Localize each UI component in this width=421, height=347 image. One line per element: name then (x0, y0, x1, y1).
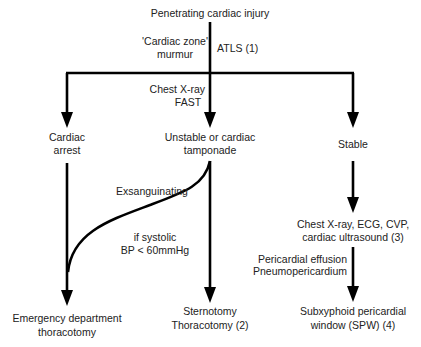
flowchart: Penetrating cardiac injury 'Cardiac zone… (0, 0, 421, 347)
murmur-label: murmur (157, 48, 194, 60)
edt-node: Emergency department (12, 312, 121, 324)
systolic-label: if systolic (134, 231, 177, 243)
arrow-down-icon (347, 112, 359, 128)
pneumopericardium-label: Pneumopericardium (253, 265, 347, 277)
edt-node-line2: thoracotomy (38, 326, 97, 338)
unstable-node: Unstable or cardiac (165, 131, 255, 143)
arrow-down-icon (347, 197, 359, 213)
stable-node: Stable (338, 138, 368, 150)
arrow-down-icon (347, 286, 359, 302)
cardiac-zone-label: 'Cardiac zone' (142, 35, 208, 47)
fast-label: FAST (175, 96, 202, 108)
spw-node: Subxyphoid pericardial (300, 305, 406, 317)
spw-node-line2: window (SPW) (4) (310, 319, 396, 331)
investigations-node-line2: cardiac ultrasound (3) (302, 231, 404, 243)
chest-xray-label: Chest X-ray (150, 83, 206, 95)
arrow-down-icon (204, 287, 216, 303)
effusion-label: Pericardial effusion (258, 253, 347, 265)
cardiac-arrest-node-line2: arrest (54, 144, 81, 156)
arrow-down-icon (61, 112, 73, 128)
arrow-down-icon (61, 290, 73, 306)
sternotomy-node-line2: Thoracotomy (2) (171, 319, 248, 331)
investigations-node: Chest X-ray, ECG, CVP, (297, 218, 409, 230)
sternotomy-node: Sternotomy (183, 305, 237, 317)
atls-label: ATLS (1) (217, 42, 258, 54)
arrow-down-icon (204, 112, 216, 128)
title-node: Penetrating cardiac injury (151, 7, 270, 19)
exsanguinating-label: Exsanguinating (116, 185, 188, 197)
unstable-node-line2: tamponade (184, 144, 237, 156)
bp-label: BP < 60mmHg (121, 244, 190, 256)
cardiac-arrest-node: Cardiac (49, 131, 85, 143)
